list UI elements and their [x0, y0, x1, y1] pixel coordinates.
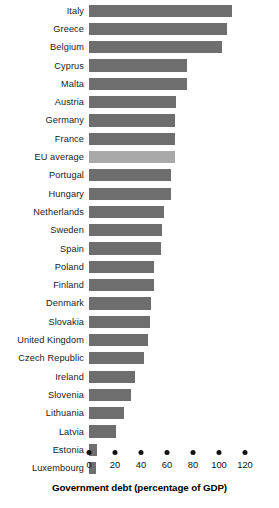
axis-tick-label: 0	[86, 459, 91, 470]
bar	[89, 242, 161, 254]
category-label: Malta	[0, 79, 84, 89]
bar-row: Greece	[0, 20, 279, 38]
bar	[89, 206, 164, 218]
category-label: Ireland	[0, 372, 84, 382]
bar-track	[89, 78, 279, 90]
bar-track	[89, 425, 279, 437]
bar	[89, 151, 175, 163]
bar-track	[89, 261, 279, 273]
bar-row: Ireland	[0, 368, 279, 386]
bar-row: Portugal	[0, 166, 279, 184]
bar-track	[89, 59, 279, 71]
bar-row: Malta	[0, 75, 279, 93]
category-label: Hungary	[0, 189, 84, 199]
category-label: Greece	[0, 24, 84, 34]
bar	[89, 261, 154, 273]
bar-row: Slovenia	[0, 386, 279, 404]
bar	[89, 352, 144, 364]
axis-tick-dot	[87, 450, 92, 455]
axis-tick-label: 40	[136, 459, 146, 470]
bar-row: Italy	[0, 2, 279, 20]
bar	[89, 96, 176, 108]
bar-row: EU average	[0, 148, 279, 166]
category-label: Italy	[0, 6, 84, 16]
bar-track	[89, 242, 279, 254]
x-axis-title: Government debt (percentage of GDP)	[0, 482, 279, 493]
bar	[89, 41, 222, 53]
bar	[89, 133, 175, 145]
bar-row: Netherlands	[0, 203, 279, 221]
category-label: EU average	[0, 152, 84, 162]
bar-row: United Kingdom	[0, 331, 279, 349]
bar-chart: ItalyGreeceBelgiumCyprusMaltaAustriaGerm…	[0, 0, 279, 508]
bar-track	[89, 114, 279, 126]
bar	[89, 169, 171, 181]
category-label: Poland	[0, 262, 84, 272]
bar	[89, 407, 124, 419]
bar-track	[89, 279, 279, 291]
bar-track	[89, 316, 279, 328]
bar-track	[89, 352, 279, 364]
bar-row: Spain	[0, 239, 279, 257]
category-label: Finland	[0, 280, 84, 290]
category-label: Belgium	[0, 42, 84, 52]
bar-row: Denmark	[0, 294, 279, 312]
plot-area: ItalyGreeceBelgiumCyprusMaltaAustriaGerm…	[0, 0, 279, 446]
bar-track	[89, 96, 279, 108]
bar	[89, 5, 232, 17]
category-label: France	[0, 134, 84, 144]
category-label: Austria	[0, 97, 84, 107]
axis-tick-dot	[217, 450, 222, 455]
axis-tick-label: 100	[211, 459, 227, 470]
bar	[89, 59, 187, 71]
bar	[89, 279, 154, 291]
category-label: Germany	[0, 115, 84, 125]
bar	[89, 188, 171, 200]
bar-track	[89, 151, 279, 163]
bar	[89, 334, 148, 346]
category-label: Denmark	[0, 298, 84, 308]
category-label: Slovakia	[0, 317, 84, 327]
bar	[89, 23, 227, 35]
axis-tick-label: 60	[162, 459, 172, 470]
bar	[89, 425, 116, 437]
axis-tick-dot	[243, 450, 248, 455]
bar	[89, 297, 151, 309]
bar	[89, 224, 162, 236]
bar-track	[89, 407, 279, 419]
bar-row: Germany	[0, 111, 279, 129]
axis-tick-label: 20	[110, 459, 120, 470]
bar-row: Hungary	[0, 185, 279, 203]
category-label: Portugal	[0, 170, 84, 180]
axis-tick-dot	[113, 450, 118, 455]
bar-track	[89, 371, 279, 383]
bar	[89, 316, 150, 328]
category-label: Lithuania	[0, 408, 84, 418]
axis-tick-dot	[165, 450, 170, 455]
bar	[89, 114, 175, 126]
bar	[89, 78, 187, 90]
category-label: Spain	[0, 244, 84, 254]
bar	[89, 389, 131, 401]
bar	[89, 371, 135, 383]
bar-track	[89, 297, 279, 309]
bar-track	[89, 5, 279, 17]
category-label: Czech Republic	[0, 353, 84, 363]
category-label: Netherlands	[0, 207, 84, 217]
bar-row: Slovakia	[0, 313, 279, 331]
bar-track	[89, 23, 279, 35]
bar-row: Austria	[0, 93, 279, 111]
bar-row: France	[0, 130, 279, 148]
bar-row: Cyprus	[0, 56, 279, 74]
bar-row: Sweden	[0, 221, 279, 239]
bar-row: Czech Republic	[0, 349, 279, 367]
bar-track	[89, 41, 279, 53]
x-axis: 020406080100120	[0, 446, 279, 480]
bar-track	[89, 224, 279, 236]
bar-row: Poland	[0, 258, 279, 276]
category-label: Cyprus	[0, 61, 84, 71]
axis-tick-dot	[139, 450, 144, 455]
axis-tick-label: 120	[237, 459, 253, 470]
bar-row: Latvia	[0, 422, 279, 440]
axis-tick-label: 80	[188, 459, 198, 470]
